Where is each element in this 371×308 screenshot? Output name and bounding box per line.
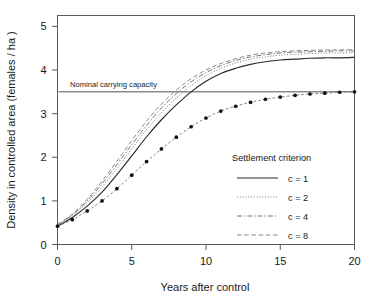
data-point [56, 224, 60, 228]
legend-label-c1: c = 1 [288, 174, 308, 184]
data-point [308, 92, 312, 96]
y-tick-label: 4 [40, 64, 46, 76]
data-point [264, 97, 268, 101]
y-axis-ticks [52, 26, 58, 244]
x-tick-label: 5 [129, 255, 135, 267]
x-tick-label: 15 [274, 255, 286, 267]
observed-data-points [56, 90, 357, 228]
data-point [204, 116, 208, 120]
plot-frame [58, 16, 355, 245]
data-point [174, 135, 178, 139]
y-tick-label: 1 [40, 195, 46, 207]
y-tick-label: 5 [40, 20, 46, 32]
legend-title: Settlement criterion [232, 153, 311, 163]
data-point [293, 93, 297, 97]
x-axis-tick-labels: 05101520 [54, 255, 360, 267]
data-point [85, 209, 89, 213]
data-point [249, 100, 253, 104]
data-point [353, 90, 357, 94]
x-tick-label: 0 [54, 255, 60, 267]
data-point [323, 91, 327, 95]
legend-items: c = 1c = 2c = 4c = 8 [237, 174, 308, 241]
y-tick-label: 0 [40, 239, 46, 251]
data-point [71, 218, 75, 222]
series-path-c8 [58, 50, 355, 225]
x-tick-label: 10 [200, 255, 212, 267]
y-axis-title: Density in controlled area (females / ha… [5, 31, 17, 228]
chart-figure: 05101520 012345 Nominal carrying capacit… [0, 0, 371, 308]
data-point [278, 95, 282, 99]
legend-label-c4: c = 4 [288, 212, 308, 222]
carrying-capacity-label: Nominal carrying capacity [70, 80, 157, 89]
x-axis-ticks [58, 245, 355, 251]
data-point [189, 125, 193, 129]
series-path-c4 [58, 51, 355, 225]
legend-label-c8: c = 8 [288, 231, 308, 241]
data-point [130, 173, 134, 177]
legend-label-c2: c = 2 [288, 193, 308, 203]
x-tick-label: 20 [348, 255, 360, 267]
legend: Settlement criterion c = 1c = 2c = 4c = … [232, 153, 311, 241]
data-point [160, 147, 164, 151]
x-axis-title: Years after control [161, 281, 250, 293]
data-point [234, 104, 238, 108]
data-point [145, 160, 149, 164]
data-point [338, 90, 342, 94]
y-axis-tick-labels: 012345 [40, 20, 46, 250]
data-point [115, 187, 119, 191]
data-point [219, 109, 223, 113]
data-point [100, 199, 104, 203]
y-tick-label: 3 [40, 108, 46, 120]
chart-svg: 05101520 012345 Nominal carrying capacit… [0, 0, 371, 308]
y-tick-label: 2 [40, 151, 46, 163]
